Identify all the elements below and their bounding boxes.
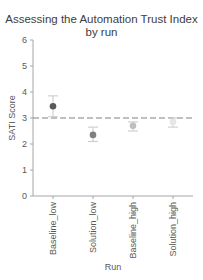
data-points (48, 96, 178, 141)
x-tick-label: Solution_high (168, 202, 178, 257)
marker (50, 103, 57, 110)
x-tick-label: Solution_low (88, 202, 98, 254)
data-point-baseline-low (48, 96, 58, 117)
data-point-solution-high (168, 118, 178, 127)
x-tick-label: Baseline_high (128, 202, 138, 259)
marker (170, 119, 177, 126)
y-axis: 0123456 (22, 35, 33, 201)
chart-plot: 0123456 Baseline_lowSolution_lowBaseline… (0, 0, 203, 280)
y-tick-label: 1 (22, 165, 27, 175)
marker (130, 123, 137, 130)
data-point-solution-low (88, 127, 98, 141)
y-axis-title: SATI Score (7, 95, 17, 140)
marker (90, 132, 97, 139)
y-tick-label: 2 (22, 139, 27, 149)
x-tick-label: Baseline_low (48, 202, 58, 256)
y-tick-label: 4 (22, 87, 27, 97)
y-tick-label: 0 (22, 191, 27, 201)
x-axis: Baseline_lowSolution_lowBaseline_highSol… (33, 196, 193, 259)
y-tick-label: 5 (22, 61, 27, 71)
x-axis-title: Run (105, 262, 122, 272)
y-tick-label: 3 (22, 113, 27, 123)
data-point-baseline-high (128, 122, 138, 131)
y-tick-label: 6 (22, 35, 27, 45)
